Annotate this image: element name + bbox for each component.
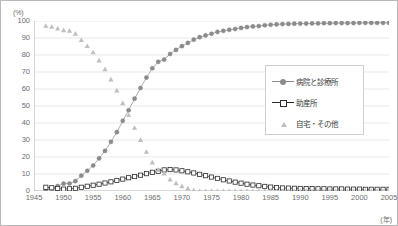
data-point xyxy=(85,184,89,188)
data-point xyxy=(274,22,278,26)
x-axis-tick: 1975 xyxy=(197,194,227,202)
data-point xyxy=(67,181,71,185)
data-point xyxy=(233,27,237,31)
data-point xyxy=(138,173,142,177)
data-point xyxy=(192,38,196,42)
birth-location-chart: (%) (年) 1009080706050403020100 194519501… xyxy=(0,0,398,226)
data-point xyxy=(322,21,326,25)
data-point xyxy=(251,183,255,187)
data-point xyxy=(375,21,379,25)
data-point xyxy=(239,26,243,30)
y-axis-tick: 60 xyxy=(4,85,30,93)
data-point xyxy=(121,119,125,123)
data-point xyxy=(56,186,60,190)
y-axis-tick: 80 xyxy=(4,51,30,59)
data-point xyxy=(55,26,60,31)
data-point xyxy=(227,28,231,32)
data-point xyxy=(132,97,136,101)
x-axis-tick: 1990 xyxy=(285,194,315,202)
data-point xyxy=(144,172,148,176)
x-axis-tick: 1995 xyxy=(315,194,345,202)
y-axis-tick: 100 xyxy=(4,17,30,25)
data-point xyxy=(96,58,101,63)
x-axis-unit-label: (年) xyxy=(380,214,392,224)
data-point xyxy=(381,21,385,25)
y-axis-tick: 30 xyxy=(4,136,30,144)
data-point xyxy=(180,169,184,173)
data-point xyxy=(173,181,178,186)
data-point xyxy=(192,171,196,175)
data-point xyxy=(316,21,320,25)
data-point xyxy=(127,108,131,112)
x-axis-tick: 1950 xyxy=(49,194,79,202)
data-point xyxy=(61,28,66,33)
data-point xyxy=(108,77,113,82)
data-point xyxy=(174,48,178,52)
data-point xyxy=(67,187,71,191)
data-point xyxy=(43,23,48,28)
data-point xyxy=(251,24,255,28)
data-point xyxy=(150,160,155,165)
legend-label-hospital: 病院と診療所 xyxy=(296,76,337,87)
data-point xyxy=(79,185,83,189)
data-point xyxy=(334,21,338,25)
x-axis-tick: 2000 xyxy=(344,194,374,202)
data-point xyxy=(79,174,83,178)
series-midwife xyxy=(44,167,389,191)
x-axis-tick: 1970 xyxy=(167,194,197,202)
data-point xyxy=(132,125,137,130)
data-point xyxy=(298,21,302,25)
y-axis-tick: 20 xyxy=(4,153,30,161)
legend-item-home[interactable]: 自宅・その他 xyxy=(270,113,359,134)
data-point xyxy=(67,28,72,33)
y-axis-tick: 50 xyxy=(4,102,30,110)
legend-item-hospital[interactable]: 病院と診療所 xyxy=(270,71,359,92)
data-point xyxy=(73,179,77,183)
data-point xyxy=(209,32,213,36)
data-point xyxy=(61,187,65,191)
data-point xyxy=(167,177,172,182)
data-point xyxy=(97,156,101,160)
data-point xyxy=(156,60,160,64)
data-point xyxy=(121,177,125,181)
data-point xyxy=(168,167,172,171)
data-point xyxy=(280,22,284,26)
y-axis-tick: 70 xyxy=(4,68,30,76)
data-point xyxy=(185,186,190,191)
legend-marker-open-square-icon xyxy=(270,97,296,109)
data-point xyxy=(186,170,190,174)
data-point xyxy=(209,175,213,179)
data-point xyxy=(109,140,113,144)
data-point xyxy=(215,176,219,180)
data-point xyxy=(85,169,89,173)
data-point xyxy=(162,57,166,61)
data-point xyxy=(150,170,154,174)
x-axis-tick: 1960 xyxy=(108,194,138,202)
data-point xyxy=(73,186,77,190)
y-axis-tick: 90 xyxy=(4,34,30,42)
data-point xyxy=(144,149,149,154)
x-axis-tick: 1955 xyxy=(78,194,108,202)
legend-item-midwife[interactable]: 助産所 xyxy=(270,92,359,113)
data-point xyxy=(114,88,119,93)
x-axis-tick: 1985 xyxy=(256,194,286,202)
data-point xyxy=(103,149,107,153)
data-point xyxy=(180,44,184,48)
data-point xyxy=(269,23,273,27)
data-point xyxy=(109,180,113,184)
data-point xyxy=(221,29,225,33)
data-point xyxy=(340,21,344,25)
chart-legend: 病院と診療所 助産所 自宅・その他 xyxy=(265,65,364,135)
data-point xyxy=(215,30,219,34)
data-point xyxy=(257,24,261,28)
data-point xyxy=(245,182,249,186)
data-point xyxy=(263,23,267,27)
legend-marker-filled-circle-icon xyxy=(270,76,296,88)
data-point xyxy=(61,182,65,186)
data-point xyxy=(292,22,296,26)
data-point xyxy=(328,21,332,25)
x-axis-tick: 1945 xyxy=(19,194,49,202)
data-point xyxy=(150,66,154,70)
data-point xyxy=(144,76,148,80)
data-point xyxy=(198,172,202,176)
